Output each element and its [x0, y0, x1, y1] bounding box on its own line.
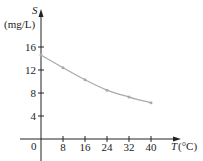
- x-axis-unit: (°C): [178, 140, 197, 153]
- y-axis: S (mg/L) 481216: [4, 4, 44, 161]
- y-tick-label: 8: [31, 87, 37, 99]
- y-axis-unit: (mg/L): [4, 18, 35, 31]
- y-axis-arrow-icon: [39, 9, 44, 17]
- x-axis: 0 T (°C) 816243240: [20, 136, 197, 153]
- curve-line: [41, 55, 151, 103]
- x-tick-label: 16: [80, 141, 92, 153]
- x-tick-label: 8: [60, 141, 66, 153]
- data-point: [150, 101, 153, 104]
- y-tick-label: 16: [25, 41, 37, 53]
- x-tick-label: 32: [124, 141, 135, 153]
- origin-label: 0: [31, 140, 37, 152]
- y-tick-label: 4: [31, 110, 37, 122]
- data-point: [62, 66, 65, 69]
- y-axis-var: S: [32, 4, 38, 16]
- data-series: [40, 54, 153, 105]
- data-point: [106, 89, 109, 92]
- x-tick-label: 24: [102, 141, 114, 153]
- data-point: [128, 96, 131, 99]
- line-chart: S (mg/L) 481216 0 T (°C) 816243240: [0, 0, 203, 161]
- x-tick-label: 40: [146, 141, 158, 153]
- y-tick-label: 12: [25, 64, 36, 76]
- data-point: [40, 54, 43, 57]
- x-axis-var: T: [171, 140, 178, 152]
- data-point: [84, 78, 87, 81]
